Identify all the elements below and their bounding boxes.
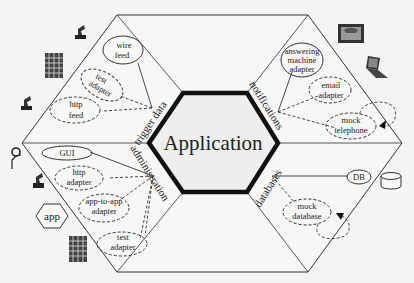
label: feed bbox=[69, 110, 84, 120]
person-icon bbox=[75, 25, 86, 39]
application-label: Application bbox=[163, 131, 263, 155]
label: DB bbox=[353, 172, 365, 182]
label: test bbox=[117, 232, 129, 242]
person-icon bbox=[21, 96, 32, 110]
label: adapter bbox=[289, 64, 314, 74]
label: adapter bbox=[91, 206, 116, 216]
label: GUI bbox=[59, 148, 74, 158]
building-icon bbox=[69, 236, 87, 262]
label: mock bbox=[342, 115, 362, 125]
label: app-to-app bbox=[86, 196, 123, 206]
user-icon bbox=[12, 148, 21, 169]
app-label: app bbox=[44, 210, 60, 222]
laptop-icon bbox=[366, 56, 388, 78]
label: feed bbox=[115, 50, 130, 60]
label: mock bbox=[298, 201, 318, 211]
database-cylinder-icon bbox=[381, 173, 401, 190]
label: wire bbox=[116, 40, 131, 50]
person-icon bbox=[33, 173, 44, 188]
label: telephone bbox=[334, 125, 367, 135]
label: http bbox=[69, 99, 82, 109]
telephone-icon bbox=[338, 24, 364, 43]
label: adapter bbox=[110, 242, 135, 252]
label: database bbox=[292, 211, 321, 221]
building-icon bbox=[45, 53, 63, 78]
hexagonal-architecture-diagram: Application trigger data notifications a… bbox=[0, 0, 414, 283]
label: http bbox=[72, 167, 85, 177]
label: adapter bbox=[318, 90, 343, 100]
label: adapter bbox=[66, 177, 91, 187]
app-hexagon-icon: app bbox=[36, 204, 68, 228]
label: email bbox=[322, 80, 342, 90]
